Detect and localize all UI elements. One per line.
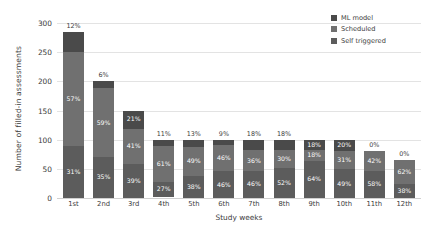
bar-stack: 18%18%64%	[304, 140, 325, 198]
y-tick-label: 300	[38, 19, 52, 28]
bar-segment[interactable]: 39%	[123, 164, 144, 198]
bar-segment[interactable]: 30%	[274, 150, 295, 168]
bar-segment[interactable]: 35%	[93, 157, 114, 198]
bar-segment[interactable]: 61%	[153, 146, 174, 182]
bar-segment[interactable]: 18%	[304, 140, 325, 151]
bar-top-label: 11%	[157, 130, 171, 138]
segment-value-label: 27%	[157, 186, 171, 192]
bar-column[interactable]: 18%30%52%18%	[274, 23, 295, 198]
segment-value-label: 41%	[127, 143, 141, 149]
segment-value-label: 64%	[307, 176, 321, 182]
y-tick-label: 250	[38, 48, 52, 57]
legend-swatch-icon	[331, 15, 337, 21]
x-tick-label: 2nd	[93, 200, 114, 208]
segment-value-label: 49%	[187, 158, 201, 164]
bar-segment[interactable]: 18%	[304, 150, 325, 161]
bar-segment[interactable]: 6%	[93, 81, 114, 88]
segment-value-label: 57%	[67, 96, 81, 102]
segment-value-label: 31%	[337, 157, 351, 163]
bar-column[interactable]: 20%31%49%	[334, 23, 355, 198]
bar-segment[interactable]: 13%	[183, 140, 204, 148]
bar-top-label: 0%	[369, 141, 379, 149]
gridline-0: 0	[57, 198, 421, 199]
x-tick-label: 11th	[364, 200, 385, 208]
bar-stack: 9%46%46%9%	[213, 140, 234, 198]
bar-segment[interactable]: 52%	[274, 168, 295, 198]
bar-segment[interactable]: 46%	[213, 145, 234, 172]
segment-value-label: 18%	[307, 142, 321, 148]
bar-column[interactable]: 12%57%31%12%	[63, 23, 84, 198]
segment-value-label: 38%	[397, 188, 411, 194]
segment-value-label: 58%	[367, 181, 381, 187]
bars-container: 12%57%31%12%6%59%35%6%21%41%39%11%61%27%…	[57, 23, 421, 198]
legend-label: ML model	[341, 14, 373, 22]
y-tick-label: 200	[38, 77, 52, 86]
bar-column[interactable]: 9%46%46%9%	[213, 23, 234, 198]
bar-segment[interactable]: 42%	[364, 151, 385, 171]
legend-swatch-icon	[331, 38, 337, 44]
bar-stack: 42%58%0%	[364, 151, 385, 198]
bar-column[interactable]: 13%49%38%13%	[183, 23, 204, 198]
bar-segment[interactable]: 31%	[63, 146, 84, 198]
x-tick-label: 4th	[153, 200, 174, 208]
legend-item[interactable]: Scheduled	[331, 25, 386, 33]
chart-legend: ML modelScheduledSelf triggered	[331, 14, 386, 48]
segment-value-label: 38%	[187, 184, 201, 190]
segment-value-label: 62%	[397, 169, 411, 175]
bar-segment[interactable]: 38%	[183, 176, 204, 198]
y-tick-label: 100	[38, 135, 52, 144]
y-tick-label: 0	[47, 194, 52, 203]
bar-top-label: 9%	[219, 130, 229, 138]
legend-item[interactable]: ML model	[331, 14, 386, 22]
x-tick-label: 12th	[394, 200, 415, 208]
bar-column[interactable]: 42%58%0%	[364, 23, 385, 198]
segment-value-label: 46%	[217, 155, 231, 161]
bar-segment[interactable]: 64%	[304, 161, 325, 198]
bar-stack: 6%59%35%6%	[93, 81, 114, 198]
bar-segment[interactable]: 57%	[63, 52, 84, 147]
bar-stack: 12%57%31%12%	[63, 32, 84, 198]
bar-stack: 62%38%0%	[394, 160, 415, 198]
bar-segment[interactable]: 21%	[123, 111, 144, 129]
segment-value-label: 46%	[217, 182, 231, 188]
bar-column[interactable]: 21%41%39%	[123, 23, 144, 198]
bar-segment[interactable]: 18%	[274, 140, 295, 151]
bar-segment[interactable]: 12%	[63, 32, 84, 52]
bar-segment[interactable]: 59%	[93, 88, 114, 157]
bar-segment[interactable]: 49%	[334, 169, 355, 198]
bar-stack: 18%36%46%18%	[243, 140, 264, 198]
bar-segment[interactable]: 41%	[123, 129, 144, 165]
segment-value-label: 31%	[67, 169, 81, 175]
x-tick-label: 1st	[63, 200, 84, 208]
bar-segment[interactable]: 27%	[153, 182, 174, 198]
bar-segment[interactable]: 18%	[243, 140, 264, 151]
x-tick-label: 10th	[334, 200, 355, 208]
x-tick-label: 8th	[274, 200, 295, 208]
x-tick-label: 7th	[243, 200, 264, 208]
x-axis-ticks: 1st2nd3rd4th5th6th7th8th9th10th11th12th	[57, 200, 421, 208]
legend-item[interactable]: Self triggered	[331, 37, 386, 45]
bar-segment[interactable]: 36%	[243, 150, 264, 171]
bar-column[interactable]: 6%59%35%6%	[93, 23, 114, 198]
bar-segment[interactable]: 46%	[243, 171, 264, 198]
bar-column[interactable]: 18%18%64%	[304, 23, 325, 198]
bar-column[interactable]: 11%61%27%11%	[153, 23, 174, 198]
plot-area: 05010015020025030012%57%31%12%6%59%35%6%…	[57, 23, 421, 198]
bar-top-label: 12%	[66, 22, 80, 30]
bar-segment[interactable]: 38%	[394, 184, 415, 198]
bar-column[interactable]: 18%36%46%18%	[243, 23, 264, 198]
segment-value-label: 30%	[277, 156, 291, 162]
bar-segment[interactable]: 31%	[334, 151, 355, 169]
y-axis-title: Number of filled-in assessments	[14, 29, 23, 189]
bar-segment[interactable]: 62%	[394, 160, 415, 184]
y-tick-label: 150	[38, 106, 52, 115]
bar-segment[interactable]: 58%	[364, 171, 385, 198]
bar-segment[interactable]: 46%	[213, 171, 234, 198]
bar-top-label: 6%	[99, 71, 109, 79]
bar-column[interactable]: 62%38%0%	[394, 23, 415, 198]
bar-segment[interactable]: 49%	[183, 147, 204, 176]
x-tick-label: 9th	[304, 200, 325, 208]
x-axis-title: Study weeks	[57, 213, 421, 222]
bar-segment[interactable]: 20%	[334, 140, 355, 152]
segment-value-label: 35%	[97, 174, 111, 180]
